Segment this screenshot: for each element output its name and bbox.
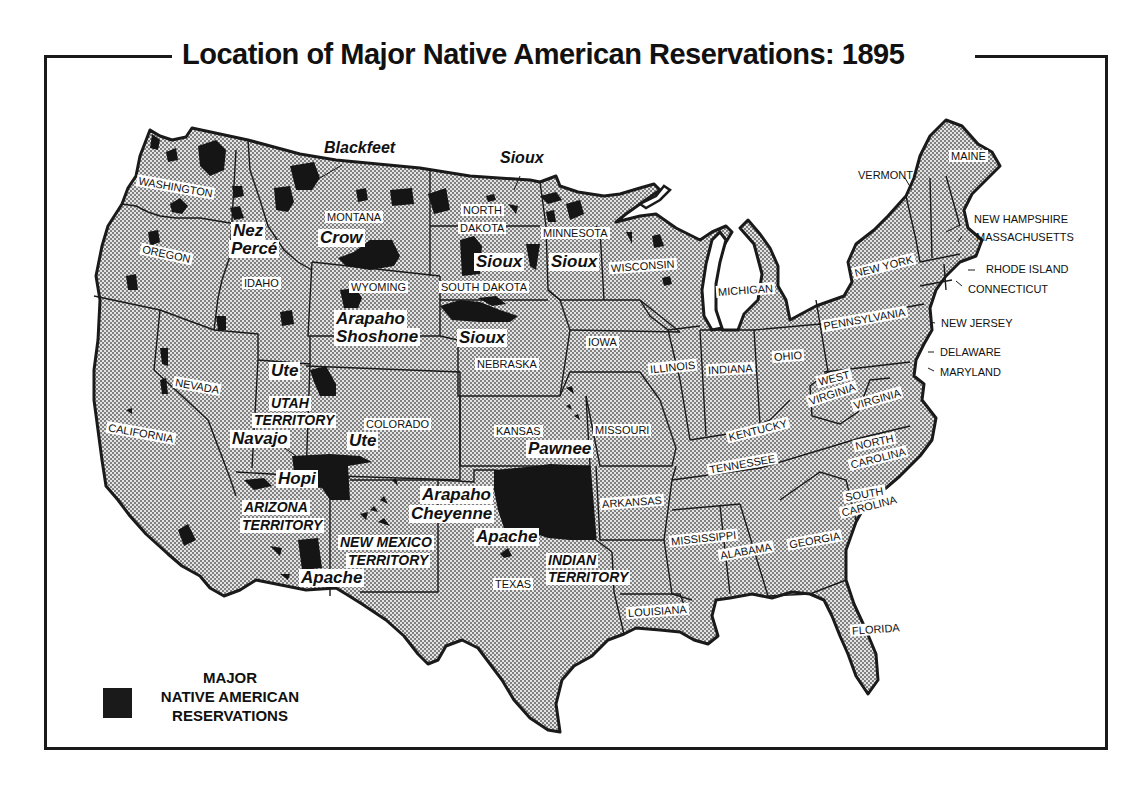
label-sioux-mn: Sioux	[549, 253, 599, 271]
legend-line-1: MAJOR	[140, 668, 320, 687]
label-pawnee: Pawnee	[526, 440, 593, 458]
label-maine: MAINE	[949, 150, 988, 162]
legend-line-3: RESERVATIONS	[140, 706, 320, 725]
label-ohio: OHIO	[772, 349, 805, 363]
label-wyoming: WYOMING	[349, 281, 408, 293]
label-sioux-ne: Sioux	[457, 329, 507, 347]
label-nez-perce-2: Percé	[229, 240, 279, 258]
label-new-hampshire: NEW HAMPSHIRE	[972, 213, 1070, 225]
label-north-dakota-1: NORTH	[461, 204, 504, 216]
label-south-dakota: SOUTH DAKOTA	[439, 281, 529, 293]
legend-reservation-swatch	[103, 688, 132, 718]
label-nez-perce-1: Nez	[231, 222, 265, 240]
legend-text: MAJOR NATIVE AMERICAN RESERVATIONS	[140, 668, 320, 725]
label-apache-az: Apache	[299, 569, 364, 587]
label-apache-ok: Apache	[474, 528, 539, 546]
label-crow: Crow	[318, 229, 365, 247]
label-maryland: MARYLAND	[938, 366, 1003, 378]
label-arapaho-shoshone-1: Arapaho	[334, 310, 407, 328]
label-massachusetts: MASSACHUSETTS	[974, 231, 1076, 243]
label-texas: TEXAS	[493, 578, 533, 590]
label-north-dakota-2: DAKOTA	[458, 222, 506, 234]
label-navajo: Navajo	[230, 430, 290, 448]
label-delaware: DELAWARE	[938, 346, 1003, 358]
label-vermont: VERMONT	[856, 169, 915, 181]
label-minnesota: MINNESOTA	[541, 227, 610, 239]
label-ute-co: Ute	[347, 432, 378, 450]
reservation-apache-az	[298, 538, 322, 570]
label-indian-territory-1: INDIAN	[546, 553, 598, 568]
label-arapaho-cheyenne-1: Arapaho	[420, 486, 493, 504]
label-new-mexico-territory-2: TERRITORY	[346, 553, 430, 568]
label-sioux-north: Sioux	[498, 149, 546, 167]
label-blackfeet: Blackfeet	[322, 139, 397, 157]
label-indian-territory-2: TERRITORY	[546, 570, 630, 585]
label-ute-ut: Ute	[269, 362, 300, 380]
label-indiana: INDIANA	[706, 362, 755, 377]
label-arapaho-shoshone-2: Shoshone	[334, 328, 420, 346]
label-montana: MONTANA	[325, 211, 383, 223]
label-sioux-sd: Sioux	[474, 253, 524, 271]
label-arizona-territory-1: ARIZONA	[242, 500, 310, 515]
label-new-jersey: NEW JERSEY	[939, 317, 1015, 329]
label-utah-territory-2: TERRITORY	[252, 413, 336, 428]
label-missouri: MISSOURI	[593, 424, 651, 436]
label-arapaho-cheyenne-2: Cheyenne	[409, 505, 494, 523]
label-nebraska: NEBRASKA	[475, 358, 539, 370]
label-connecticut: CONNECTICUT	[966, 283, 1050, 295]
label-idaho: IDAHO	[242, 277, 281, 289]
label-kansas: KANSAS	[494, 425, 543, 437]
label-rhode-island: RHODE ISLAND	[984, 263, 1071, 275]
label-new-mexico-territory-1: NEW MEXICO	[338, 535, 434, 550]
label-arizona-territory-2: TERRITORY	[240, 518, 324, 533]
label-utah-territory-1: UTAH	[269, 396, 311, 411]
label-hopi: Hopi	[276, 470, 318, 488]
legend-line-2: NATIVE AMERICAN	[140, 687, 320, 706]
label-iowa: IOWA	[586, 336, 619, 348]
label-colorado: COLORADO	[364, 418, 431, 430]
